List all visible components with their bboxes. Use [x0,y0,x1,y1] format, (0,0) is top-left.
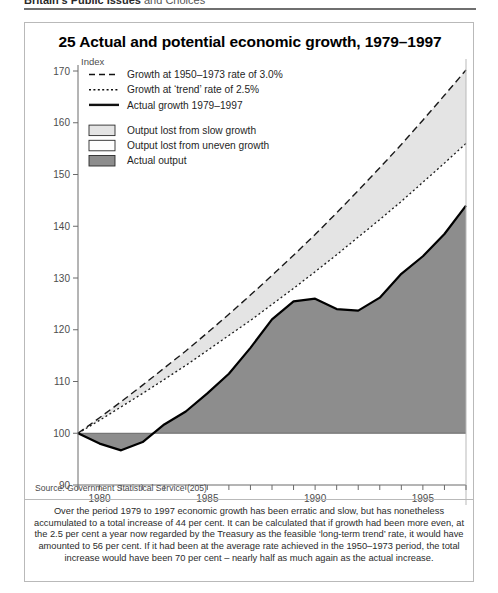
legend-swatch-icon [89,156,115,167]
y-tick-label: 170 [53,66,70,77]
running-head: Britain's Public Issues and Choices [24,0,344,6]
source-note: Source: Government Statistical Service (… [35,483,207,493]
chart-plot-area: 9010011012013014015016017019801985199019… [25,55,475,507]
running-head-bold: Britain's Public Issues [24,0,141,6]
legend-item-label: Growth at 1950–1973 rate of 3.0% [127,69,283,80]
legend-item: Actual output [89,155,187,166]
y-tick-label: 160 [53,117,70,128]
legend-item-label: Output lost from uneven growth [127,140,269,151]
y-tick-label: 100 [53,428,70,439]
legend-item-label: Actual growth 1979–1997 [127,100,243,111]
running-head-light: and Choices [144,0,205,6]
header-rule [24,8,476,10]
legend-swatch-icon [89,125,115,136]
legend-item: Output lost from slow growth [89,125,256,136]
legend-item: Growth at 1950–1973 rate of 3.0% [89,69,283,80]
y-axis-title: Index [81,56,104,67]
figure-container: 25 Actual and potential economic growth,… [24,22,474,582]
legend-item-label: Actual output [127,155,187,166]
caption-text: Over the period 1979 to 1997 economic gr… [34,506,464,565]
y-tick-label: 150 [53,169,70,180]
page-title: 25 Actual and potential economic growth,… [25,33,475,51]
legend-swatch-icon [89,140,115,151]
y-tick-label: 130 [53,273,70,284]
legend-item-label: Growth at ‘trend’ rate of 2.5% [127,84,259,95]
legend-item-label: Output lost from slow growth [127,125,256,136]
y-tick-label: 110 [54,376,70,387]
legend-item: Growth at ‘trend’ rate of 2.5% [89,84,259,95]
legend-item: Actual growth 1979–1997 [89,100,243,111]
running-head-text: Britain's Public Issues and Choices [24,0,344,6]
figure-caption: Over the period 1979 to 1997 economic gr… [25,499,473,572]
economic-growth-chart: 9010011012013014015016017019801985199019… [25,55,475,507]
legend-item: Output lost from uneven growth [89,140,269,151]
y-tick-label: 140 [53,221,70,232]
y-tick-label: 120 [53,324,70,335]
